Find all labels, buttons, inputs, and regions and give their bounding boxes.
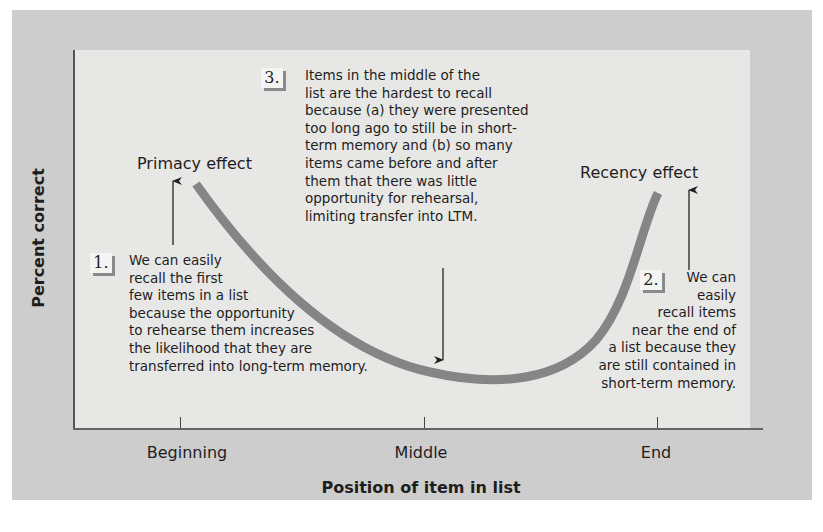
note-1-number: 1. — [90, 253, 112, 273]
primacy-effect-label: Primacy effect — [137, 154, 252, 173]
note-1-text: We can easily recall the first few items… — [129, 252, 368, 375]
note-3-text: Items in the middle of the list are the … — [305, 67, 529, 225]
note-3-number: 3. — [261, 68, 283, 88]
note-2-text: We can easily recall items near the end … — [580, 269, 736, 392]
recency-effect-label: Recency effect — [580, 163, 698, 182]
